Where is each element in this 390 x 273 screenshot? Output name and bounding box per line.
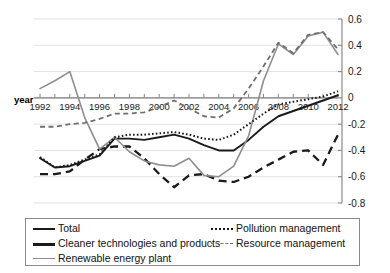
legend-column-right: Pollution management Resource management xyxy=(211,221,345,251)
legend-item-pollution-management[interactable]: Pollution management xyxy=(211,221,345,235)
svg-text:2002: 2002 xyxy=(178,101,199,112)
svg-text:0: 0 xyxy=(348,92,354,103)
chart-legend: Total Cleaner technologies and products … xyxy=(25,218,360,266)
svg-text:1994: 1994 xyxy=(59,101,80,112)
legend-label-pollution-management: Pollution management xyxy=(236,222,340,234)
legend-key-renewable-icon xyxy=(33,253,55,263)
legend-label-total: Total xyxy=(58,222,80,234)
x-axis-ticks xyxy=(40,94,338,98)
y-axis-tick-labels: 0.60.40.20-0.2-0.4-0.6-0.8 xyxy=(348,14,366,209)
series-line-resource-management xyxy=(40,32,338,127)
svg-text:-0.2: -0.2 xyxy=(348,119,366,130)
legend-label-resource-management: Resource management xyxy=(236,237,345,249)
legend-key-total-icon xyxy=(33,223,55,233)
svg-text:-0.4: -0.4 xyxy=(348,145,366,156)
legend-item-cleaner-technologies[interactable]: Cleaner technologies and products xyxy=(33,236,220,250)
legend-key-cleaner-icon xyxy=(33,238,55,248)
svg-text:0.4: 0.4 xyxy=(348,40,362,51)
svg-text:1996: 1996 xyxy=(89,101,110,112)
svg-text:2004: 2004 xyxy=(208,101,229,112)
svg-text:0.6: 0.6 xyxy=(348,14,362,25)
legend-label-renewable-energy: Renewable energy plant xyxy=(58,252,171,264)
legend-item-total[interactable]: Total xyxy=(33,221,220,235)
svg-text:0.2: 0.2 xyxy=(348,66,362,77)
legend-key-resource-icon xyxy=(211,238,233,248)
x-axis-tick-labels: 1992199419961998200020022004200620082010… xyxy=(29,101,348,112)
svg-text:1998: 1998 xyxy=(119,101,140,112)
svg-text:-0.8: -0.8 xyxy=(348,198,366,209)
svg-text:2012: 2012 xyxy=(327,101,348,112)
legend-label-cleaner-technologies: Cleaner technologies and products xyxy=(58,237,220,249)
svg-text:-0.6: -0.6 xyxy=(348,171,366,182)
x-axis-title: year xyxy=(14,94,34,105)
legend-key-pollution-icon xyxy=(211,223,233,233)
legend-item-renewable-energy[interactable]: Renewable energy plant xyxy=(33,251,220,265)
legend-column-left: Total Cleaner technologies and products … xyxy=(33,221,220,266)
legend-item-resource-management[interactable]: Resource management xyxy=(211,236,345,250)
line-chart: 0.60.40.20-0.2-0.4-0.6-0.8 1992199419961… xyxy=(0,0,390,273)
